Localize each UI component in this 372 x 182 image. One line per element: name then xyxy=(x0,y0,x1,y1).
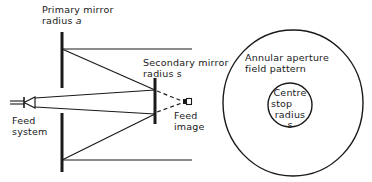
feed-system-label-line2: system xyxy=(12,126,48,137)
primary-mirror-label-line1: Primary mirror xyxy=(42,4,114,15)
secondary-mirror-label-line2: radius s xyxy=(143,68,229,79)
feed-horn-icon xyxy=(10,97,35,108)
centre-stop-label-line4: s xyxy=(268,120,312,129)
feed-image-label: Feed image xyxy=(174,110,205,132)
feed-image-icon xyxy=(183,99,192,105)
ray-primary-bottom-to-secondary xyxy=(62,114,155,160)
secondary-mirror-label: Secondary mirror radius s xyxy=(143,57,229,79)
primary-mirror-radius-var: a xyxy=(76,15,82,26)
secondary-mirror-label-line1: Secondary mirror xyxy=(143,57,229,68)
feed-system-label-line1: Feed xyxy=(12,115,48,126)
centre-stop-label: Centre stop radius s xyxy=(268,87,312,129)
feed-image-label-line2: image xyxy=(174,121,205,132)
virtual-ray-top xyxy=(157,91,182,101)
primary-mirror-label: Primary mirror radius a xyxy=(42,4,114,26)
annular-aperture-label-line1: Annular aperture xyxy=(245,52,329,63)
annular-aperture-label-line2: field pattern xyxy=(245,63,329,74)
ray-feed-to-secondary-bottom xyxy=(35,107,155,114)
feed-system-label: Feed system xyxy=(12,115,48,137)
ray-feed-to-secondary-top xyxy=(35,90,155,98)
annular-aperture-label: Annular aperture field pattern xyxy=(245,52,329,74)
cassegrain-diagram xyxy=(0,0,372,182)
primary-mirror-radius-text: radius xyxy=(42,15,76,26)
primary-mirror-label-line2: radius a xyxy=(42,15,114,26)
ray-primary-top-to-secondary xyxy=(62,49,155,90)
feed-image-label-line1: Feed xyxy=(174,110,205,121)
centre-stop-label-line2: stop xyxy=(268,98,312,109)
centre-stop-label-line1: Centre xyxy=(268,87,312,98)
